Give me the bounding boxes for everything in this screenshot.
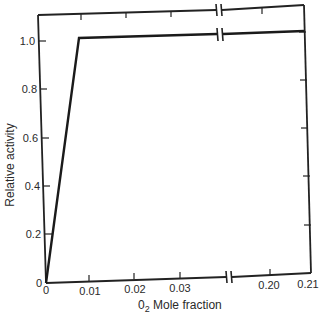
top-axis-left [38,10,216,15]
x-tick-label: 0.21 [297,278,318,290]
data-series-relative-activity [46,31,304,283]
chart: 1.0 0.8 0.6 0.4 0.2 0 0 0.01 0.02 0.03 0… [0,0,324,314]
x-tick-label: 0.03 [169,282,190,294]
x-tick-label: 0.20 [258,279,279,291]
break-mark-bottom-2 [231,271,232,283]
y-tick-label: 0.2 [26,228,41,240]
top-axis-right [222,5,304,10]
origin-y-label: 0 [36,277,42,289]
y-axis-title: Relative activity [3,123,17,206]
y-tick-label: 0.8 [22,83,37,95]
break-mark-curve-1 [217,28,218,41]
break-mark-top-1 [216,4,217,16]
y-tick-label: 1.0 [20,35,35,47]
break-mark-bottom-1 [226,271,227,283]
break-mark-curve-2 [222,28,223,41]
x-axis-title-rest: Mole fraction [150,298,222,312]
left-axis [38,15,46,283]
axis-break-markers [216,4,232,283]
x-axis-title: 02 Mole fraction [138,298,222,314]
y-tick-label: 0.4 [25,180,40,192]
origin-x-label: 0 [43,284,49,296]
bottom-axis-right [232,273,311,277]
break-mark-top-2 [221,4,222,16]
right-axis [304,5,311,273]
x-tick-label: 0.01 [79,285,100,297]
y-tick-labels: 1.0 0.8 0.6 0.4 0.2 [20,35,41,240]
x-tick-label: 0.02 [124,283,145,295]
curve-right-segment [223,31,304,34]
y-tick-label: 0.6 [23,132,38,144]
curve-left-segment [46,34,217,283]
